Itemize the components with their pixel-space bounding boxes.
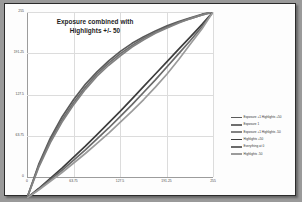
series-line (27, 12, 213, 198)
series-line (27, 12, 213, 198)
x-tick-label: 0 (26, 180, 28, 183)
chart-legend: Exposure +1 Highlights +50Exposure 1Expo… (231, 114, 297, 158)
legend-swatch (231, 153, 242, 155)
legend-swatch (231, 124, 242, 126)
legend-item: Highlights +50 (231, 136, 297, 143)
legend-item: Everything at 0 (231, 143, 297, 150)
series-line (27, 12, 213, 198)
series-line (27, 12, 213, 198)
chart-title: Exposure combined with Highlights +/- 50 (39, 17, 151, 36)
legend-item: Exposure +1 Highlights -50 (231, 129, 297, 136)
screenshot-frame: 063.75127.5191.25255 063.75127.5191.2525… (0, 0, 302, 202)
legend-label: Exposure +1 Highlights -50 (244, 131, 281, 134)
y-tick-label: 191.25 (14, 52, 24, 55)
y-tick-label: 63.75 (16, 134, 25, 137)
legend-swatch (231, 117, 242, 119)
chart-title-line1: Exposure combined with (39, 17, 151, 26)
plot-area: 063.75127.5191.25255 063.75127.5191.2525… (27, 12, 213, 177)
legend-label: Highlights +50 (244, 138, 264, 141)
legend-label: Everything at 0 (244, 145, 265, 148)
x-tick-label: 255 (210, 180, 216, 183)
x-tick-label: 127.5 (116, 180, 125, 183)
chart-card: 063.75127.5191.25255 063.75127.5191.2525… (4, 3, 296, 196)
legend-item: Highlights -50 (231, 150, 297, 157)
y-tick-label: 0 (22, 175, 24, 178)
x-tick-label: 63.75 (69, 180, 78, 183)
x-tick-label: 191.25 (161, 180, 171, 183)
curve-lines (27, 12, 213, 198)
series-line (27, 12, 213, 198)
legend-swatch (231, 146, 242, 148)
legend-item: Exposure 1 (231, 121, 297, 128)
y-tick-label: 255 (18, 10, 24, 13)
legend-swatch (231, 139, 242, 141)
series-line (27, 12, 213, 198)
legend-label: Exposure +1 Highlights +50 (244, 116, 282, 119)
chart-title-line2: Highlights +/- 50 (39, 26, 151, 35)
legend-item: Exposure +1 Highlights +50 (231, 114, 297, 121)
legend-swatch (231, 131, 242, 133)
y-tick-label: 127.5 (16, 93, 25, 96)
legend-label: Highlights -50 (244, 153, 263, 156)
gridline-vertical (213, 12, 214, 177)
legend-label: Exposure 1 (244, 123, 260, 126)
